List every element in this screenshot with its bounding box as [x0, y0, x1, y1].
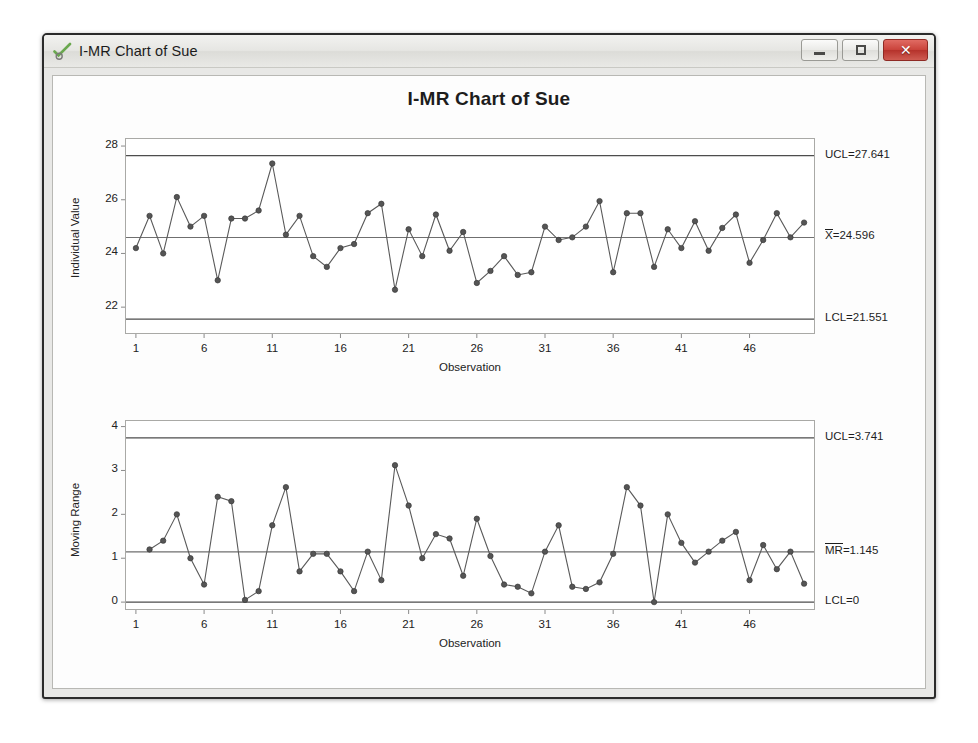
x-axis-tick-label: 26 — [457, 342, 497, 354]
close-button[interactable]: ✕ — [883, 39, 928, 61]
overbar-symbol: MR — [825, 544, 843, 556]
data-point — [774, 566, 779, 571]
x-axis-title: Observation — [125, 361, 815, 373]
ucl-label: UCL=27.641 — [825, 148, 890, 160]
data-point — [420, 253, 425, 258]
data-point — [433, 531, 438, 536]
data-point — [774, 210, 779, 215]
data-point — [460, 573, 465, 578]
data-point — [665, 227, 670, 232]
data-point — [570, 235, 575, 240]
data-point — [351, 241, 356, 246]
data-point — [692, 560, 697, 565]
data-point — [133, 245, 138, 250]
data-point — [215, 494, 220, 499]
data-point — [651, 599, 656, 604]
x-axis-tick-label: 41 — [661, 342, 701, 354]
data-point — [583, 224, 588, 229]
data-point — [365, 210, 370, 215]
data-point — [229, 498, 234, 503]
data-point — [692, 219, 697, 224]
data-point — [570, 584, 575, 589]
data-point — [460, 229, 465, 234]
maximize-button[interactable] — [842, 39, 879, 61]
data-point — [542, 549, 547, 554]
data-point — [638, 503, 643, 508]
data-point — [556, 523, 561, 528]
data-point — [147, 547, 152, 552]
data-point — [310, 253, 315, 258]
graph-client-area: I-MR Chart of Sue 2224262816111621263136… — [52, 75, 926, 689]
lcl-label: LCL=0 — [825, 594, 859, 606]
data-point — [788, 235, 793, 240]
data-point — [201, 582, 206, 587]
data-point — [324, 551, 329, 556]
data-point — [406, 227, 411, 232]
data-point — [720, 225, 725, 230]
data-point — [201, 213, 206, 218]
y-axis-tick-label: 22 — [84, 299, 118, 311]
y-axis-title: Individual Value — [69, 198, 81, 278]
y-axis-tick-label: 26 — [84, 192, 118, 204]
data-point — [256, 588, 261, 593]
data-point — [747, 260, 752, 265]
data-point — [433, 212, 438, 217]
y-axis-tick-label: 0 — [84, 594, 118, 606]
data-point — [488, 268, 493, 273]
data-point — [665, 512, 670, 517]
x-axis-tick-label: 6 — [184, 342, 224, 354]
data-point — [188, 556, 193, 561]
minimize-button[interactable] — [801, 39, 838, 61]
x-axis-tick-label: 11 — [252, 618, 292, 630]
y-axis-title: Moving Range — [69, 483, 81, 557]
data-point — [583, 586, 588, 591]
x-axis-tick-label: 36 — [593, 342, 633, 354]
data-point — [447, 536, 452, 541]
x-axis-tick-label: 31 — [525, 618, 565, 630]
x-axis-tick-label: 46 — [730, 342, 770, 354]
data-point — [160, 538, 165, 543]
data-point — [297, 213, 302, 218]
data-point — [529, 591, 534, 596]
data-point — [297, 569, 302, 574]
data-point — [392, 462, 397, 467]
data-point — [501, 253, 506, 258]
data-point — [597, 580, 602, 585]
x-axis-tick-label: 21 — [389, 342, 429, 354]
data-point — [624, 210, 629, 215]
data-point — [488, 553, 493, 558]
data-point — [529, 270, 534, 275]
x-axis-tick-label: 1 — [116, 342, 156, 354]
maximize-icon — [856, 45, 866, 55]
data-point — [338, 569, 343, 574]
data-point — [801, 581, 806, 586]
data-line — [136, 164, 804, 290]
data-point — [229, 216, 234, 221]
minitab-check-icon — [53, 42, 72, 61]
window-titlebar[interactable]: I-MR Chart of Sue ✕ — [44, 35, 934, 68]
data-point — [542, 224, 547, 229]
data-point — [760, 237, 765, 242]
data-point — [242, 216, 247, 221]
data-point — [406, 503, 411, 508]
data-point — [501, 582, 506, 587]
data-point — [556, 237, 561, 242]
data-point — [706, 549, 711, 554]
y-axis-tick-label: 3 — [84, 462, 118, 474]
data-point — [788, 549, 793, 554]
data-point — [351, 588, 356, 593]
data-point — [270, 161, 275, 166]
imr-chart: I-MR Chart of Sue 2224262816111621263136… — [53, 76, 925, 688]
data-point — [379, 201, 384, 206]
x-axis-tick-label: 11 — [252, 342, 292, 354]
data-point — [283, 232, 288, 237]
y-axis-tick-label: 28 — [84, 138, 118, 150]
data-point — [147, 213, 152, 218]
x-axis-tick-label: 36 — [593, 618, 633, 630]
close-icon: ✕ — [900, 43, 912, 57]
data-point — [270, 523, 275, 528]
series-layer — [53, 406, 925, 676]
data-point — [679, 540, 684, 545]
data-line — [150, 465, 805, 602]
data-point — [174, 512, 179, 517]
